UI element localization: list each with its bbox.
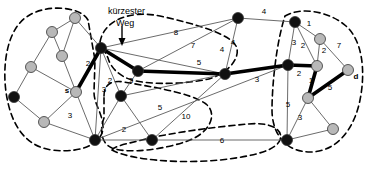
- graph-edge: [31, 32, 52, 67]
- graph-edge: [308, 98, 333, 129]
- edge-weight-label: 2: [297, 69, 302, 78]
- graph-node[interactable]: [39, 117, 50, 128]
- graph-node[interactable]: [283, 60, 294, 71]
- graph-node[interactable]: [71, 87, 82, 98]
- graph-edge: [75, 18, 101, 48]
- node-label-d: d: [354, 72, 359, 81]
- edge-weight-label: 8: [174, 28, 179, 37]
- graph-edge: [287, 129, 333, 140]
- graph-node[interactable]: [290, 17, 301, 28]
- graph-edge: [238, 18, 295, 22]
- graph-edge: [152, 74, 225, 140]
- graph-node[interactable]: [282, 135, 293, 146]
- edge-weight-label: 2: [322, 46, 327, 55]
- graph-node[interactable]: [133, 66, 144, 77]
- edge-weight-label: 7: [191, 41, 196, 50]
- graph-edge: [295, 22, 317, 66]
- graph-edge: [31, 67, 76, 92]
- graph-node[interactable]: [70, 13, 81, 24]
- graph-node[interactable]: [9, 92, 20, 103]
- edge-weight-label: 1: [307, 19, 312, 28]
- annotation-line1: kürzester: [108, 6, 145, 16]
- edge-weight-label: 3: [68, 111, 73, 120]
- edge-weight-label: 2: [122, 125, 127, 134]
- edge-weight-label: 4: [220, 45, 225, 54]
- cluster-right: [272, 11, 363, 152]
- graph-edge: [95, 48, 101, 140]
- edge-weight-label: 5: [158, 103, 163, 112]
- graph-node[interactable]: [220, 69, 231, 80]
- edge-weight-label: 2: [301, 41, 306, 50]
- graph-node[interactable]: [343, 65, 354, 76]
- edge-weight-label: 5: [197, 58, 202, 67]
- graph-node[interactable]: [315, 34, 326, 45]
- graph-edge: [76, 92, 95, 140]
- graph-svg: 233287234556104433251227153 sd kürzester…: [0, 0, 368, 169]
- edge-weight-label: 10: [182, 112, 191, 121]
- annotation-line2: Weg: [116, 18, 134, 28]
- graph-node[interactable]: [90, 135, 101, 146]
- graph-node[interactable]: [26, 62, 37, 73]
- edge-weight-label: 3: [129, 76, 134, 85]
- node-layer: [9, 13, 354, 146]
- edge-weight-label: 7: [337, 41, 342, 50]
- graph-node[interactable]: [47, 27, 58, 38]
- graph-node[interactable]: [57, 51, 68, 62]
- cluster-bottom: [112, 124, 281, 162]
- graph-node[interactable]: [312, 61, 323, 72]
- shortest-path-layer: [76, 48, 348, 98]
- diagram-canvas: 233287234556104433251227153 sd kürzester…: [0, 0, 368, 169]
- edge-weight-layer: 233287234556104433251227153: [68, 7, 342, 145]
- node-label-s: s: [65, 86, 70, 95]
- graph-edge: [95, 96, 121, 140]
- shortest-path-edge: [76, 48, 101, 92]
- graph-edge: [44, 122, 95, 140]
- shortest-path-edge: [225, 65, 288, 74]
- graph-node[interactable]: [147, 135, 158, 146]
- graph-edge: [121, 74, 225, 96]
- graph-edge: [62, 18, 75, 56]
- edge-weight-label: 3: [298, 113, 303, 122]
- graph-node[interactable]: [96, 43, 107, 54]
- edge-weight-label: 5: [328, 83, 333, 92]
- graph-node[interactable]: [233, 13, 244, 24]
- edge-weight-label: 5: [286, 100, 291, 109]
- graph-node[interactable]: [328, 124, 339, 135]
- edge-weight-label: 4: [262, 7, 267, 16]
- edge-weight-label: 2: [86, 59, 91, 68]
- edge-weight-label: 4: [231, 38, 236, 47]
- edge-weight-label: 2: [108, 76, 113, 85]
- graph-node[interactable]: [303, 93, 314, 104]
- edge-weight-label: 1: [309, 76, 314, 85]
- edge-weight-label: 6: [220, 136, 225, 145]
- annotation-arrowhead-icon: [119, 38, 126, 46]
- edge-weight-label: 3: [255, 75, 260, 84]
- edge-weight-label: 3: [102, 85, 107, 94]
- graph-node[interactable]: [116, 91, 127, 102]
- edge-weight-label: 3: [292, 38, 297, 47]
